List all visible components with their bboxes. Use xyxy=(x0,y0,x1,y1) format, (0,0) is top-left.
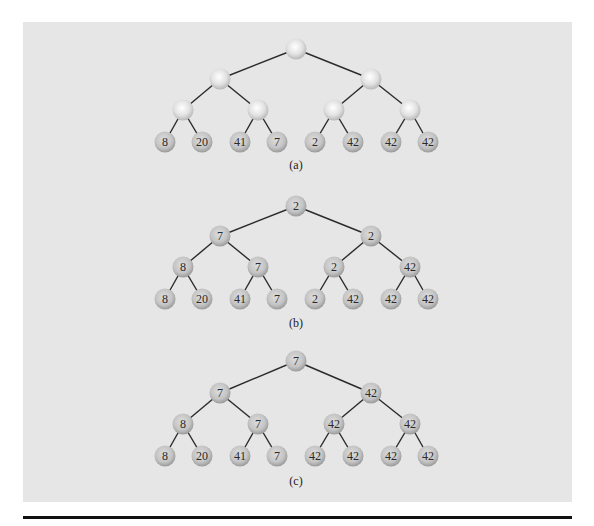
tree-node xyxy=(210,69,231,90)
node-value: 42 xyxy=(422,292,434,306)
tree-node: 7 xyxy=(248,257,269,278)
leaf-node: 20 xyxy=(192,289,213,310)
node-value: 8 xyxy=(162,292,168,306)
node-value: 7 xyxy=(217,386,223,400)
leaf-node: 2 xyxy=(305,132,326,153)
leaf-node: 42 xyxy=(343,132,364,153)
node-value: 42 xyxy=(422,135,434,149)
node-value: 2 xyxy=(312,135,318,149)
node-value: 42 xyxy=(385,292,397,306)
leaf-node: 20 xyxy=(192,132,213,153)
node-value: 20 xyxy=(196,449,208,463)
leaf-node: 42 xyxy=(381,289,402,310)
node-value: 7 xyxy=(217,229,223,243)
leaf-node: 8 xyxy=(155,289,176,310)
node-value: 20 xyxy=(196,135,208,149)
node-value: 7 xyxy=(274,135,280,149)
tree-node xyxy=(248,100,269,121)
tree-edge xyxy=(220,49,296,79)
tree-node xyxy=(286,39,307,60)
leaf-node: 8 xyxy=(155,132,176,153)
leaf-node: 41 xyxy=(230,132,251,153)
node-value: 7 xyxy=(293,354,299,368)
node-value: 42 xyxy=(309,449,321,463)
tree-node xyxy=(400,100,421,121)
tree-node xyxy=(361,69,382,90)
tree-node: 2 xyxy=(324,257,345,278)
leaf-node: 42 xyxy=(381,132,402,153)
node-value: 7 xyxy=(274,449,280,463)
node-value: 8 xyxy=(162,135,168,149)
node-value: 42 xyxy=(422,449,434,463)
node-value: 41 xyxy=(234,292,246,306)
tree-node: 42 xyxy=(361,383,382,404)
tree-node: 7 xyxy=(210,226,231,247)
tree-node: 2 xyxy=(361,226,382,247)
leaf-node: 42 xyxy=(343,446,364,467)
tree-node: 42 xyxy=(400,414,421,435)
leaf-node: 42 xyxy=(418,289,439,310)
node-value: 42 xyxy=(365,386,377,400)
tree-node: 42 xyxy=(400,257,421,278)
node-value: 42 xyxy=(385,135,397,149)
node-value: 8 xyxy=(180,260,186,274)
tree-node: 8 xyxy=(173,257,194,278)
node-value: 7 xyxy=(274,292,280,306)
node-value: 41 xyxy=(234,135,246,149)
tree-node xyxy=(324,100,345,121)
node-value: 42 xyxy=(404,417,416,431)
leaf-node: 20 xyxy=(192,446,213,467)
node-value: 20 xyxy=(196,292,208,306)
tree-edge xyxy=(296,361,371,393)
leaf-node: 7 xyxy=(267,289,288,310)
segment-tree-diagram: 8204172424242272872428204172424242774287… xyxy=(0,0,594,526)
node-value: 42 xyxy=(347,449,359,463)
node-value: 42 xyxy=(385,449,397,463)
leaf-node: 42 xyxy=(418,446,439,467)
tree-edge xyxy=(220,206,296,236)
leaf-node: 41 xyxy=(230,446,251,467)
node-value: 2 xyxy=(331,260,337,274)
caption-b: (b) xyxy=(276,316,316,331)
tree-edge xyxy=(296,49,371,79)
caption-a: (a) xyxy=(276,158,316,173)
node-value: 42 xyxy=(404,260,416,274)
node-value: 7 xyxy=(255,417,261,431)
tree-node: 7 xyxy=(248,414,269,435)
tree-edge xyxy=(296,206,371,236)
tree-node: 2 xyxy=(286,196,307,217)
node-value: 42 xyxy=(328,417,340,431)
leaf-node: 2 xyxy=(305,289,326,310)
leaf-node: 7 xyxy=(267,446,288,467)
leaf-node: 42 xyxy=(305,446,326,467)
tree-node: 7 xyxy=(286,351,307,372)
leaf-node: 8 xyxy=(155,446,176,467)
leaf-node: 41 xyxy=(230,289,251,310)
tree-node xyxy=(173,100,194,121)
leaf-node: 7 xyxy=(267,132,288,153)
tree-edge xyxy=(220,361,296,393)
tree-node: 42 xyxy=(324,414,345,435)
tree-node: 7 xyxy=(210,383,231,404)
leaf-node: 42 xyxy=(343,289,364,310)
node-value: 2 xyxy=(368,229,374,243)
node-value: 7 xyxy=(255,260,261,274)
leaf-node: 42 xyxy=(381,446,402,467)
node-value: 42 xyxy=(347,292,359,306)
node-value: 8 xyxy=(180,417,186,431)
leaf-node: 42 xyxy=(418,132,439,153)
bottom-rule xyxy=(23,516,572,519)
tree-node: 8 xyxy=(173,414,194,435)
node-value: 8 xyxy=(162,449,168,463)
node-value: 2 xyxy=(312,292,318,306)
node-value: 42 xyxy=(347,135,359,149)
caption-c: (c) xyxy=(276,474,316,489)
node-value: 41 xyxy=(234,449,246,463)
node-value: 2 xyxy=(293,199,299,213)
